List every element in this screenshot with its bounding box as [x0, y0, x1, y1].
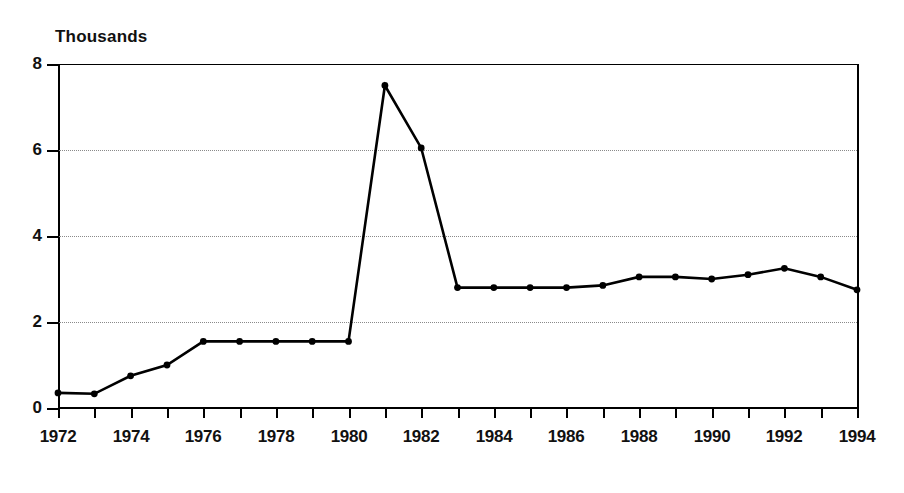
series-line [58, 86, 857, 394]
data-point-1973 [91, 390, 98, 397]
data-point-1992 [781, 265, 788, 272]
data-point-1972 [55, 390, 62, 397]
data-point-1981 [382, 82, 389, 89]
data-point-1975 [164, 362, 171, 369]
data-point-1984 [490, 284, 497, 291]
data-point-1991 [745, 271, 752, 278]
data-point-1990 [708, 276, 715, 283]
data-point-1979 [309, 338, 316, 345]
data-point-1977 [236, 338, 243, 345]
data-point-1986 [563, 284, 570, 291]
data-point-1987 [599, 282, 606, 289]
data-point-1982 [418, 145, 425, 152]
data-point-1985 [527, 284, 534, 291]
data-point-1989 [672, 274, 679, 281]
series-markers [55, 82, 861, 397]
data-series-layer [0, 0, 904, 493]
data-point-1978 [273, 338, 280, 345]
data-point-1980 [345, 338, 352, 345]
data-point-1983 [454, 284, 461, 291]
data-point-1974 [127, 372, 134, 379]
line-chart-figure: Thousands 02468 197219741976197819801982… [0, 0, 904, 493]
data-point-1988 [636, 274, 643, 281]
data-point-1994 [854, 286, 861, 293]
data-point-1976 [200, 338, 207, 345]
data-point-1993 [817, 274, 824, 281]
